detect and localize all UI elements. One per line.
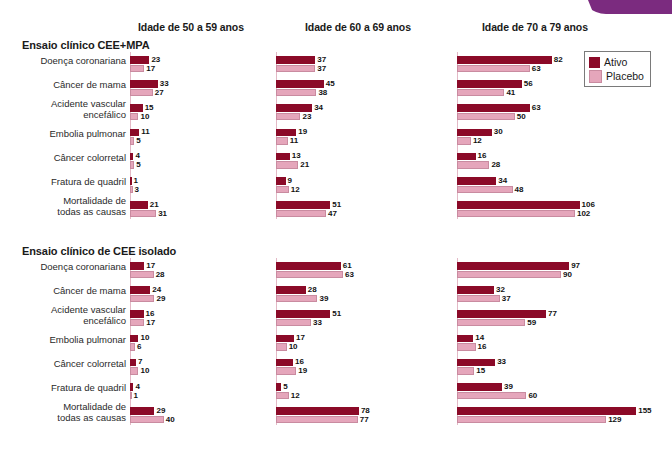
bar-value-placebo: 19 <box>298 367 307 375</box>
bar-value-placebo: 12 <box>291 392 300 400</box>
bar-placebo <box>457 367 474 375</box>
bar-value-placebo: 28 <box>491 161 500 169</box>
bar-value-ativo: 28 <box>308 286 317 294</box>
bar-value-placebo: 129 <box>608 416 621 424</box>
row-label: Embolia pulmonar <box>10 335 126 346</box>
row-label: Acidente vascular encefálico <box>10 99 126 120</box>
bar-ativo <box>276 56 315 64</box>
bar-value-placebo: 40 <box>166 416 175 424</box>
bar-placebo <box>457 343 476 351</box>
bar-group: 1628 <box>457 153 642 172</box>
panel-cee-mpa-50-59: 23173327151011545132131 <box>130 52 265 221</box>
bar-value-ativo: 77 <box>548 310 557 318</box>
bar-ativo <box>276 104 312 112</box>
bar-value-placebo: 60 <box>528 392 537 400</box>
bar-value-ativo: 106 <box>582 201 595 209</box>
bar-value-placebo: 102 <box>577 210 590 218</box>
bar-value-ativo: 51 <box>332 201 341 209</box>
bar-placebo <box>457 89 504 97</box>
bar-value-ativo: 29 <box>156 407 165 415</box>
bar-group: 4538 <box>276 80 446 99</box>
bar-value-ativo: 9 <box>288 177 292 185</box>
bar-ativo <box>457 286 494 294</box>
bar-value-ativo: 63 <box>532 104 541 112</box>
bar-placebo <box>130 295 154 303</box>
bar-group: 1321 <box>276 153 446 172</box>
bar-group: 8263 <box>457 56 642 75</box>
bar-group: 106102 <box>457 201 642 220</box>
bar-group: 3315 <box>457 359 642 378</box>
bar-value-ativo: 97 <box>571 262 580 270</box>
bar-ativo <box>130 201 148 209</box>
bar-value-placebo: 41 <box>506 89 515 97</box>
row-label: Câncer colorretal <box>10 359 126 370</box>
bar-group: 1728 <box>130 262 265 281</box>
bar-value-ativo: 1 <box>134 177 138 185</box>
bar-value-ativo: 14 <box>475 334 484 342</box>
bar-value-ativo: 17 <box>296 334 305 342</box>
bar-group: 41 <box>130 383 265 402</box>
bar-ativo <box>457 262 569 270</box>
bar-placebo <box>276 210 326 218</box>
bar-value-placebo: 6 <box>137 343 141 351</box>
bar-ativo <box>130 262 144 270</box>
bar-ativo <box>130 407 154 415</box>
row-label: Câncer de mama <box>10 286 126 297</box>
bar-placebo <box>276 295 317 303</box>
bar-ativo <box>457 153 476 161</box>
bar-group: 1619 <box>276 359 446 378</box>
bar-placebo <box>276 367 296 375</box>
bar-ativo <box>130 335 138 343</box>
bar-group: 512 <box>276 383 446 402</box>
bar-ativo <box>130 177 132 185</box>
row-label: Mortalidade de todas as causas <box>10 402 126 423</box>
bar-placebo <box>276 271 343 279</box>
bar-value-ativo: 45 <box>326 80 335 88</box>
bar-group: 2839 <box>276 286 446 305</box>
bar-value-ativo: 37 <box>317 56 326 64</box>
bar-placebo <box>130 137 134 145</box>
bar-ativo <box>130 56 149 64</box>
bar-ativo <box>130 80 158 88</box>
bar-value-placebo: 27 <box>155 89 164 97</box>
bar-value-ativo: 33 <box>497 358 506 366</box>
bar-ativo <box>457 201 580 209</box>
bar-group: 155129 <box>457 407 642 426</box>
bar-placebo <box>457 210 575 218</box>
bar-value-ativo: 16 <box>146 310 155 318</box>
bar-group: 3737 <box>276 56 446 75</box>
bar-group: 1617 <box>130 310 265 329</box>
bar-ativo <box>276 310 330 318</box>
bar-value-placebo: 5 <box>136 161 140 169</box>
bar-group: 2131 <box>130 201 265 220</box>
bar-ativo <box>457 335 473 343</box>
bar-placebo <box>130 65 144 73</box>
bar-ativo <box>276 286 306 294</box>
column-header-60-69: Idade de 60 a 69 anos <box>305 21 411 33</box>
bar-value-ativo: 23 <box>151 56 160 64</box>
bar-value-placebo: 63 <box>345 271 354 279</box>
bar-group: 7759 <box>457 310 642 329</box>
bar-group: 6163 <box>276 262 446 281</box>
panel-cee-mpa-60-69: 373745383423191113219125147 <box>276 52 446 221</box>
bar-value-ativo: 4 <box>135 383 139 391</box>
bar-value-placebo: 28 <box>156 271 165 279</box>
panel-cee-mpa-70-79: 826356416350301216283448106102 <box>457 52 642 221</box>
bar-value-placebo: 48 <box>515 186 524 194</box>
bar-ativo <box>130 310 144 318</box>
bar-value-placebo: 12 <box>473 137 482 145</box>
column-headers: Idade de 50 a 59 anos Idade de 60 a 69 a… <box>0 21 668 37</box>
bar-ativo <box>130 104 143 112</box>
bar-value-ativo: 56 <box>524 80 533 88</box>
bar-ativo <box>130 286 150 294</box>
bar-value-ativo: 33 <box>160 80 169 88</box>
bar-value-placebo: 11 <box>290 137 298 145</box>
bar-value-ativo: 13 <box>292 152 301 160</box>
bar-value-placebo: 10 <box>140 113 149 121</box>
bar-value-placebo: 38 <box>318 89 327 97</box>
bar-group: 2429 <box>130 286 265 305</box>
bar-ativo <box>276 262 341 270</box>
bar-group: 912 <box>276 177 446 196</box>
bar-ativo <box>457 129 492 137</box>
bar-group: 710 <box>130 359 265 378</box>
